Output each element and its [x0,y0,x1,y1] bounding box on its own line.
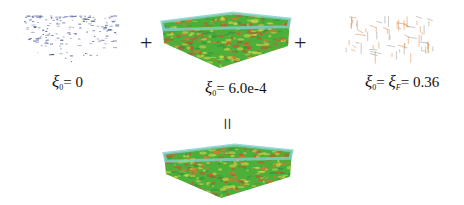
scatter-point [60,48,62,49]
block-texture [239,30,241,31]
block-texture [279,38,285,40]
scatter-point [41,45,43,46]
block-texture [272,67,275,70]
scatter-point [105,25,106,26]
block-texture [167,191,170,193]
block-texture [277,48,285,50]
block-texture [197,193,203,196]
block-texture [278,67,284,69]
scatter-point [35,42,39,43]
scatter-point [109,26,113,27]
scatter-point [51,54,54,55]
scatter-point [57,38,60,39]
block-texture [257,11,265,14]
scatter-point [25,17,27,18]
block-texture [284,61,289,64]
block-texture [258,57,265,60]
block-texture [183,198,189,200]
scatter-point [83,55,84,56]
scatter-point [94,19,96,20]
scatter-point [70,16,73,17]
block-texture [247,176,251,178]
block-texture [208,153,215,156]
block-texture [247,47,250,49]
scatter-point [55,17,58,18]
label-xi0-6e-4: ξ0= 6.0e-4 [205,78,266,98]
scatter-point [83,21,85,22]
block-texture [268,59,273,62]
scatter-point [32,21,34,22]
block-texture [229,165,236,168]
scatter-point [115,25,119,26]
block-texture [196,177,199,179]
block-texture [231,50,238,53]
sparse-segment [398,45,408,48]
scatter-point [105,18,106,19]
scatter-point [66,52,67,53]
block-texture [277,181,285,184]
block-texture [233,22,237,25]
block-texture [235,190,240,192]
block-texture [217,144,219,145]
label-value: = 0.36 [401,74,439,90]
block-texture [243,34,251,38]
block-texture [171,195,177,198]
block-texture [266,196,272,199]
scatter-point [45,31,47,32]
block-texture [266,23,271,24]
block-texture [264,13,270,14]
block-texture [257,68,262,70]
block-texture [273,19,280,21]
sparse-segment [351,49,355,51]
scatter-point [37,22,38,23]
block-texture [251,167,254,168]
block-texture [181,61,185,64]
scatter-point [29,38,31,39]
plus-operator-2: + [294,32,306,54]
block-texture [198,68,202,69]
block-texture [284,47,286,48]
block-texture [269,58,277,61]
block-texture [194,36,199,38]
plus-operator-1: + [140,32,152,54]
block-texture [189,198,194,200]
block-texture [205,197,207,200]
block-texture [225,34,230,37]
block-texture [273,163,275,164]
block-texture [281,58,288,60]
scatter-point [24,22,27,23]
block-texture [218,168,222,170]
scatter-point [115,20,116,21]
block-texture [212,58,218,60]
block-texture [233,176,238,179]
block-texture [205,192,212,195]
block-texture [239,24,246,25]
block-texture [160,47,167,50]
block-texture [229,64,231,67]
scatter-point [63,17,66,18]
block-texture [206,162,211,164]
block-texture [273,52,281,54]
block-texture [182,62,187,64]
block-texture [279,65,285,67]
block-texture [270,55,272,57]
block-texture [244,54,250,56]
scatter-point [90,25,94,26]
scatter-point [40,36,42,37]
block-texture [190,142,197,144]
block-texture [272,65,275,68]
block-texture [178,61,181,64]
block-texture [180,183,184,184]
block-texture [205,142,212,144]
sparse-segment [353,45,357,48]
block-texture [179,63,184,65]
scatter-point [46,40,49,41]
block-texture [168,68,170,70]
scatter-point [59,46,61,47]
scatter-point [69,27,71,28]
block-texture [291,190,294,193]
block-texture [287,166,294,169]
block-texture [174,26,177,28]
block-texture [273,176,275,180]
block-texture [278,144,285,145]
